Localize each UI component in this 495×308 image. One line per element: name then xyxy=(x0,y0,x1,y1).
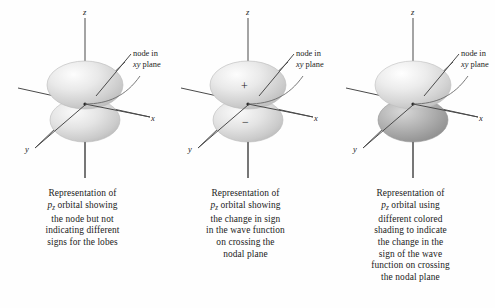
caption-line: indicating different xyxy=(0,225,165,237)
caption-line: on crossing the xyxy=(163,237,328,249)
orbital-diagram-3: z x y node in xy plane xyxy=(328,0,493,182)
caption-line: different colored xyxy=(328,214,493,226)
caption-line: the change in sign xyxy=(163,214,328,226)
orbital-diagram-2: + − z x y node in xy plane xyxy=(163,0,328,182)
panel-1-caption: Representation of pz orbital showing the… xyxy=(0,188,165,249)
node-annotation-line2: xy plane xyxy=(132,60,161,69)
node-annotation-line1: node in xyxy=(461,49,487,58)
caption-line-text: orbital showing xyxy=(58,200,118,210)
caption-line: function on crossing xyxy=(328,260,493,272)
node-annotation-line2: xy plane xyxy=(460,60,489,69)
caption-line: in the wave function xyxy=(163,225,328,237)
z-axis-label: z xyxy=(410,7,415,17)
orbital-panel-3: z x y node in xy plane Representation of… xyxy=(328,0,493,308)
caption-line: Representation of xyxy=(328,188,493,200)
orbital-figure: z x y node in xy plane Representation of… xyxy=(0,0,495,308)
z-axis-label: z xyxy=(245,7,250,17)
sign-minus-label: − xyxy=(242,115,249,129)
caption-line: shading to indicate xyxy=(328,225,493,237)
z-axis-label: z xyxy=(82,7,87,17)
orbital-subscript: z xyxy=(215,203,218,211)
panel-2-caption: Representation of pz orbital showing the… xyxy=(163,188,328,260)
y-axis-label: y xyxy=(187,144,192,154)
y-axis-label: y xyxy=(352,144,357,154)
caption-line: the node but not xyxy=(0,214,165,226)
node-annotation-line1: node in xyxy=(133,49,159,58)
x-axis-label: x xyxy=(313,113,318,123)
node-annotation-line1: node in xyxy=(296,49,322,58)
orbital-panel-1: z x y node in xy plane Representation of… xyxy=(0,0,165,308)
orbital-subscript: z xyxy=(52,203,55,211)
caption-line: sign of the wave xyxy=(328,249,493,261)
orbital-lobe-top xyxy=(47,61,123,109)
caption-line: signs for the lobes xyxy=(0,237,165,249)
panel-3-caption: Representation of pz orbital using diffe… xyxy=(328,188,493,283)
x-axis-label: x xyxy=(478,113,483,123)
caption-line-text: orbital using xyxy=(391,200,439,210)
orbital-lobe-top xyxy=(375,61,451,109)
orbital-panel-2: + − z x y node in xy plane Representatio… xyxy=(163,0,328,308)
caption-line: pz orbital showing xyxy=(163,200,328,214)
caption-line: nodal plane xyxy=(163,249,328,261)
orbital-subscript: z xyxy=(386,203,389,211)
caption-line: Representation of xyxy=(163,188,328,200)
sign-plus-label: + xyxy=(241,79,248,93)
node-annotation-line2: xy plane xyxy=(295,60,324,69)
caption-line-text: orbital showing xyxy=(221,200,281,210)
orbital-diagram-1: z x y node in xy plane xyxy=(0,0,165,182)
caption-line: the nodal plane xyxy=(328,272,493,284)
caption-line: pz orbital showing xyxy=(0,200,165,214)
y-axis-label: y xyxy=(24,144,29,154)
caption-line: pz orbital using xyxy=(328,200,493,214)
caption-line: the change in the xyxy=(328,237,493,249)
orbital-lobe-top xyxy=(210,61,286,109)
x-axis-label: x xyxy=(150,113,155,123)
caption-line: Representation of xyxy=(0,188,165,200)
